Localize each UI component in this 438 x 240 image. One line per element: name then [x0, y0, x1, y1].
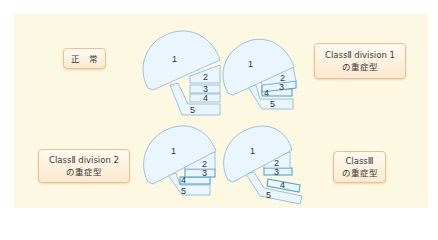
- part-4-number: 4: [203, 93, 208, 103]
- part-2-number: 2: [203, 72, 208, 82]
- part-3: [185, 169, 215, 177]
- label-class2-div2: ClassⅡ division 2 の重症型: [38, 149, 130, 183]
- diagram-class3: 1 2 3 4 5: [220, 122, 310, 202]
- label-class2-div1-line2: の重症型: [342, 61, 378, 73]
- part-3-number: 3: [202, 168, 207, 178]
- label-class2-div2-line1: ClassⅡ division 2: [49, 154, 119, 166]
- label-class3: ClassⅢ の重症型: [333, 151, 386, 183]
- part-5-number: 5: [181, 186, 186, 196]
- part-3-number: 3: [279, 82, 284, 92]
- part-5-number: 5: [266, 190, 271, 200]
- diagram-class2-div1: 1 2 3 4 5: [218, 37, 308, 117]
- part-3-number: 3: [274, 167, 279, 177]
- label-class2-div1-line1: ClassⅡ division 1: [325, 49, 395, 61]
- label-class2-div1: ClassⅡ division 1 の重症型: [314, 43, 406, 79]
- label-normal: 正 常: [63, 48, 106, 69]
- part-4-number: 4: [264, 88, 269, 98]
- part-4-number: 4: [181, 175, 186, 185]
- part-1-number: 1: [250, 146, 255, 156]
- part-1-number: 1: [248, 59, 253, 69]
- part-1-number: 1: [172, 54, 177, 64]
- part-5-number: 5: [190, 105, 195, 115]
- part-5-number: 5: [270, 99, 275, 109]
- part-4-number: 4: [280, 180, 285, 190]
- part-1-number: 1: [171, 146, 176, 156]
- label-class2-div2-line2: の重症型: [66, 166, 102, 178]
- label-normal-text: 正 常: [71, 53, 98, 65]
- label-class3-line2: の重症型: [342, 167, 378, 179]
- diagram-class2-div2: 1 2 3 4 5: [140, 122, 230, 202]
- diagram-normal: 1 2 3 4 5: [138, 27, 228, 117]
- label-class3-line1: ClassⅢ: [345, 155, 373, 167]
